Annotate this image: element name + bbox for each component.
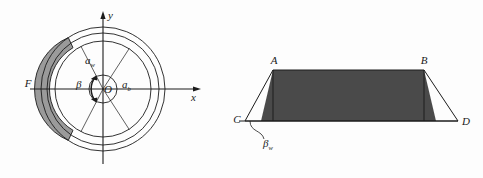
x-axis-label: x bbox=[190, 91, 196, 103]
angle-label-beta-w: βw bbox=[262, 137, 273, 151]
beta-w-subscript: w bbox=[268, 144, 273, 151]
beta-arc-arrowhead-top bbox=[91, 75, 98, 80]
angle-label-alpha-b: ab bbox=[122, 78, 132, 92]
right-diagram-group: A B C D βw bbox=[233, 54, 470, 151]
y-axis-arrowhead bbox=[100, 11, 105, 19]
beta-w-leader-line bbox=[250, 121, 264, 139]
trapezoid-fill bbox=[273, 70, 424, 121]
point-label-F: F bbox=[24, 77, 32, 89]
angle-label-beta: β bbox=[75, 78, 82, 90]
svg-text:ab: ab bbox=[122, 78, 132, 92]
alpha-w-subscript: w bbox=[91, 61, 96, 68]
center-point-label-O: O bbox=[104, 83, 112, 95]
vertex-label-A: A bbox=[270, 54, 278, 66]
figure-root: y x O F aw ab β bbox=[0, 0, 483, 178]
vertex-label-B: B bbox=[421, 54, 428, 66]
y-axis-label: y bbox=[107, 9, 113, 21]
svg-text:aw: aw bbox=[85, 54, 96, 68]
trapezoid-left-chamfer-fill bbox=[261, 70, 273, 121]
angle-label-alpha-w: aw bbox=[85, 54, 96, 68]
radial-line-lower-right bbox=[103, 89, 129, 130]
beta-arc-arrowhead-bottom bbox=[91, 97, 98, 102]
trapezoid-right-chamfer-fill bbox=[424, 70, 436, 121]
left-diagram-group: y x O F aw ab β bbox=[24, 9, 201, 164]
vertex-label-D: D bbox=[461, 115, 470, 127]
vertex-label-C: C bbox=[233, 113, 241, 125]
technical-figure-svg: y x O F aw ab β bbox=[0, 0, 483, 178]
svg-text:βw: βw bbox=[262, 137, 273, 151]
alpha-b-subscript: b bbox=[128, 85, 132, 92]
